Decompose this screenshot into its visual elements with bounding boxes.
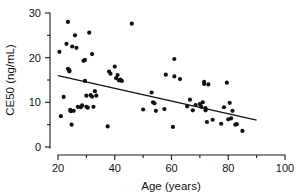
data-point bbox=[90, 94, 94, 98]
data-point bbox=[235, 122, 239, 126]
data-point bbox=[162, 107, 166, 111]
y-tick-label: 30 bbox=[29, 7, 41, 19]
data-point bbox=[171, 125, 175, 129]
data-point bbox=[84, 94, 88, 98]
data-point bbox=[211, 118, 215, 122]
data-point bbox=[225, 81, 229, 85]
data-point bbox=[201, 100, 205, 104]
data-point bbox=[113, 65, 117, 69]
data-point bbox=[74, 46, 78, 50]
data-point bbox=[80, 103, 84, 107]
axes bbox=[50, 13, 285, 155]
data-point bbox=[230, 109, 234, 113]
scatter-plot-figure: 0102030 20406080100 Age (years) CE50 (ng… bbox=[0, 0, 303, 196]
x-tick-label: 80 bbox=[222, 162, 234, 174]
data-point bbox=[202, 82, 206, 86]
data-point bbox=[172, 74, 176, 78]
y-tick-label: 10 bbox=[29, 96, 41, 108]
y-tick-label: 20 bbox=[29, 52, 41, 64]
data-point bbox=[130, 22, 134, 26]
data-point bbox=[188, 98, 192, 102]
data-point bbox=[150, 90, 154, 94]
data-point bbox=[67, 69, 71, 73]
data-point bbox=[178, 77, 182, 81]
data-point bbox=[222, 105, 226, 109]
x-tick-label: 20 bbox=[52, 162, 64, 174]
data-point bbox=[205, 120, 209, 124]
data-point bbox=[66, 20, 70, 24]
data-point bbox=[83, 58, 87, 62]
y-axis-title: CE50 (ng/mL) bbox=[4, 44, 16, 116]
data-point bbox=[206, 82, 210, 86]
data-point bbox=[72, 109, 76, 113]
data-point bbox=[59, 114, 63, 118]
data-point bbox=[191, 108, 195, 112]
data-point bbox=[120, 79, 124, 83]
data-point bbox=[219, 122, 223, 126]
data-point bbox=[64, 42, 68, 46]
data-point bbox=[172, 57, 176, 61]
x-axis-title: Age (years) bbox=[141, 180, 201, 192]
chart-canvas: 0102030 20406080100 Age (years) CE50 (ng… bbox=[0, 0, 303, 196]
data-point bbox=[70, 123, 74, 127]
data-point bbox=[94, 94, 98, 98]
data-point bbox=[141, 107, 145, 111]
data-point bbox=[87, 31, 91, 35]
y-tick-label: 0 bbox=[35, 141, 41, 153]
data-points bbox=[57, 20, 244, 133]
data-point bbox=[228, 101, 232, 105]
data-point bbox=[108, 72, 112, 76]
data-point bbox=[62, 95, 66, 99]
data-point bbox=[154, 109, 158, 113]
data-point bbox=[70, 44, 74, 48]
y-axis-ticks: 0102030 bbox=[29, 7, 50, 153]
x-tick-label: 40 bbox=[109, 162, 121, 174]
data-point bbox=[106, 124, 110, 128]
data-point bbox=[115, 73, 119, 77]
data-point bbox=[91, 105, 95, 109]
data-point bbox=[164, 73, 168, 77]
data-point bbox=[57, 50, 61, 54]
data-point bbox=[240, 129, 244, 133]
data-point bbox=[90, 52, 94, 56]
x-axis-ticks: 20406080100 bbox=[52, 155, 294, 174]
x-tick-label: 60 bbox=[165, 162, 177, 174]
data-point bbox=[229, 116, 233, 120]
x-tick-label: 100 bbox=[276, 162, 294, 174]
data-point bbox=[93, 89, 97, 93]
data-point bbox=[86, 106, 90, 110]
data-point bbox=[73, 33, 77, 37]
data-point bbox=[152, 101, 156, 105]
